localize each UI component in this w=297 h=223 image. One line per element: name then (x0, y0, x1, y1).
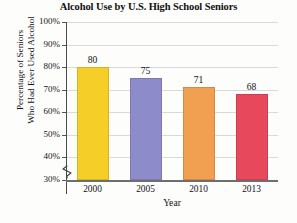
gridline (66, 45, 278, 46)
chart-figure: Alcohol Use by U.S. High School Seniors … (0, 0, 297, 223)
y-axis-tick-label: 30% (18, 174, 60, 184)
x-axis-title: Year (66, 197, 278, 208)
y-axis-tick-label: 70% (18, 84, 60, 94)
bar-value-label: 80 (73, 54, 113, 65)
bar[interactable] (236, 94, 268, 180)
gridline (66, 22, 278, 23)
plot-area (66, 22, 278, 180)
axis-break-icon (61, 165, 73, 179)
y-axis-tick-label: 60% (18, 106, 60, 116)
x-axis-tick-label: 2010 (173, 184, 225, 194)
bar[interactable] (77, 67, 109, 180)
bar-value-label: 71 (179, 74, 219, 85)
bar[interactable] (130, 78, 162, 180)
x-axis-tick-label: 2005 (120, 184, 172, 194)
y-axis-tick-label: 90% (18, 39, 60, 49)
bar[interactable] (183, 87, 215, 180)
chart-title: Alcohol Use by U.S. High School Seniors (0, 1, 297, 12)
y-axis-tick-label: 100% (18, 16, 60, 26)
bar-value-label: 75 (126, 65, 166, 76)
x-axis-tick-label: 2013 (226, 184, 278, 194)
x-axis-line (66, 180, 278, 182)
x-axis-tick-label: 2000 (67, 184, 119, 194)
y-axis-tick-label: 50% (18, 129, 60, 139)
bar-value-label: 68 (232, 81, 272, 92)
y-axis-tick-label: 40% (18, 151, 60, 161)
y-axis-tick-label: 80% (18, 61, 60, 71)
